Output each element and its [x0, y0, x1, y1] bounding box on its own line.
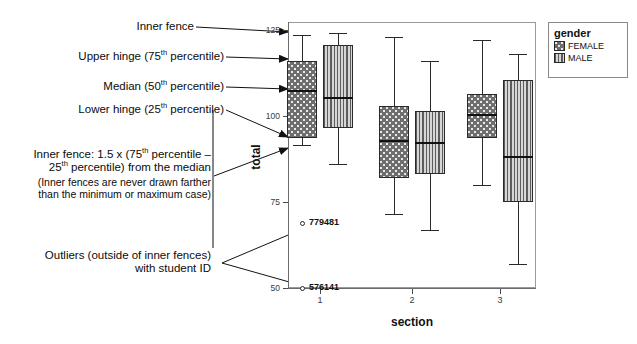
annotation-median: Median (50th percentile)	[0, 80, 224, 93]
annotation-inner-fence-definition-line2: 25th percentile) from the median	[0, 161, 211, 174]
box	[323, 45, 353, 128]
whisker-cap-upper	[329, 33, 347, 34]
x-axis-tick-label: 2	[402, 295, 422, 305]
whisker-upper	[302, 35, 303, 61]
legend-title: gender	[554, 27, 622, 39]
x-axis-tick	[412, 289, 413, 294]
annotation-upper-hinge: Upper hinge (75th percentile)	[0, 50, 224, 63]
x-axis-title: section	[288, 315, 536, 329]
annotation-inner-fence-definition-line1: Inner fence: 1.5 x (75th percentile –	[0, 148, 211, 161]
annotation-inner-fence-note-line1: (Inner fences are never drawn farther	[0, 176, 211, 188]
whisker-cap-upper	[293, 35, 311, 36]
x-axis-tick-label: 1	[310, 295, 330, 305]
box	[287, 61, 317, 138]
whisker-cap-upper	[509, 54, 527, 55]
box	[503, 80, 533, 202]
whisker-lower	[518, 202, 519, 264]
annotation-outliers-line2: with student ID	[0, 262, 211, 275]
median-line	[503, 156, 533, 158]
legend-label-male: MALE	[568, 53, 593, 63]
annotation-inner-fence-top-text: Inner fence	[136, 20, 194, 32]
legend-entry-male: MALE	[554, 53, 622, 63]
median-line	[287, 90, 317, 92]
whisker-cap-lower	[329, 164, 347, 165]
x-axis-tick-label: 3	[490, 295, 510, 305]
whisker-cap-upper	[385, 37, 403, 38]
y-axis-tick-label: 125	[258, 25, 280, 35]
y-axis-tick	[283, 288, 288, 289]
whisker-cap-upper	[421, 61, 439, 62]
y-axis-tick-label: 100	[258, 111, 280, 121]
legend-rows: FEMALEMALE	[554, 41, 622, 63]
annotation-inner-fence-note-line2: than the minimum or maximum case)	[0, 188, 211, 200]
whisker-lower	[338, 128, 339, 164]
whisker-cap-lower	[293, 145, 311, 146]
whisker-cap-lower	[509, 264, 527, 265]
whisker-lower	[430, 174, 431, 229]
median-line	[415, 142, 445, 144]
median-line	[323, 97, 353, 99]
whisker-upper	[518, 54, 519, 80]
y-axis-tick	[283, 30, 288, 31]
y-axis-tick-label: 75	[258, 197, 280, 207]
whisker-cap-lower	[473, 185, 491, 186]
whisker-cap-upper	[473, 40, 491, 41]
outlier-label: 779481	[309, 217, 339, 227]
median-line	[467, 114, 497, 116]
y-axis-tick	[283, 202, 288, 203]
outlier-label: 576141	[309, 282, 339, 292]
annotation-outliers: Outliers (outside of inner fences) with …	[0, 249, 211, 275]
outlier-point	[300, 221, 305, 226]
whisker-cap-lower	[421, 230, 439, 231]
whisker-lower	[302, 138, 303, 145]
x-axis-tick	[500, 289, 501, 294]
whisker-cap-lower	[385, 214, 403, 215]
annotation-outliers-line1: Outliers (outside of inner fences)	[0, 249, 211, 262]
y-axis-title: total	[249, 144, 263, 169]
legend-label-female: FEMALE	[568, 41, 604, 51]
outlier-point	[300, 286, 305, 291]
whisker-upper	[338, 33, 339, 45]
annotation-lower-hinge: Lower hinge (25th percentile)	[0, 103, 224, 116]
legend-swatch-male	[554, 53, 565, 63]
legend-swatch-female	[554, 41, 565, 51]
y-axis-tick-label: 50	[258, 283, 280, 293]
whisker-upper	[394, 37, 395, 106]
figure-root: Inner fence Upper hinge (75th percentile…	[0, 0, 637, 344]
annotation-inner-fence-definition: Inner fence: 1.5 x (75th percentile – 25…	[0, 148, 211, 174]
median-line	[379, 140, 409, 142]
legend: gender FEMALEMALE	[548, 22, 628, 78]
whisker-upper	[482, 40, 483, 93]
whisker-lower	[482, 138, 483, 184]
legend-entry-female: FEMALE	[554, 41, 622, 51]
annotation-inner-fence-top: Inner fence	[0, 20, 194, 33]
annotation-inner-fence-note: (Inner fences are never drawn farther th…	[0, 176, 211, 200]
whisker-lower	[394, 178, 395, 214]
whisker-upper	[430, 61, 431, 111]
